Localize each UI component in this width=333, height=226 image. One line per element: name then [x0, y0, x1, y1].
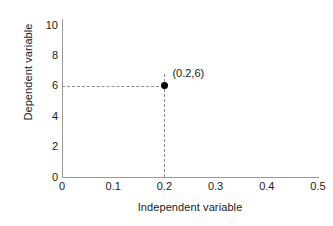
x-axis-line — [62, 177, 319, 178]
y-axis-ticks: 0246810 — [36, 0, 58, 226]
x-tick-label: 0.2 — [144, 181, 184, 192]
vertical-guide-line — [164, 74, 165, 177]
x-tick-label: 0 — [42, 181, 82, 192]
y-axis-line — [62, 19, 63, 178]
y-tick-label: 2 — [38, 141, 58, 152]
y-tick-label: 6 — [38, 80, 58, 91]
y-tick-label: 10 — [38, 20, 58, 31]
x-tick-label: 0.3 — [196, 181, 236, 192]
x-axis-label: Independent variable — [62, 201, 318, 213]
horizontal-guide-line — [62, 86, 164, 87]
x-tick-label: 0.5 — [298, 181, 333, 192]
y-axis-label: Dependent variable — [22, 0, 34, 152]
data-point-marker — [161, 82, 168, 89]
x-tick-label: 0.4 — [247, 181, 287, 192]
x-tick-label: 0.1 — [93, 181, 133, 192]
scatter-chart: Dependent variable Independent variable … — [0, 0, 333, 226]
data-point-label: (0.2,6) — [172, 68, 204, 79]
y-tick-label: 4 — [38, 111, 58, 122]
y-tick-label: 8 — [38, 50, 58, 61]
